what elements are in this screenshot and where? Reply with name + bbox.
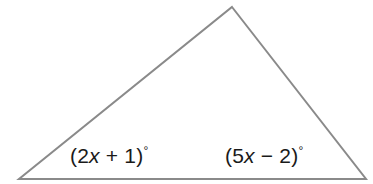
left-constant: 1 [124,144,136,167]
geometry-figure: (2x + 1)° (5x − 2)° [0,0,373,184]
degree-symbol-icon: ° [298,144,303,158]
right-variable: x [244,144,255,167]
triangle-shape [0,0,373,184]
left-coefficient: 2 [77,144,89,167]
right-constant: 2 [279,144,291,167]
left-operator: + [100,144,125,167]
left-variable: x [89,144,100,167]
angle-label-right: (5x − 2)° [225,145,303,166]
right-operator: − [255,144,280,167]
right-coefficient: 5 [232,144,244,167]
angle-label-left: (2x + 1)° [70,145,148,166]
degree-symbol-icon: ° [143,144,148,158]
